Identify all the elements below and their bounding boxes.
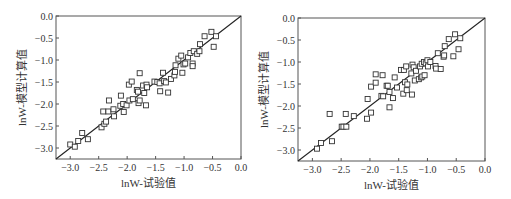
y-tick-label: −0.5 (35, 33, 53, 44)
y-tick-label: −3.0 (277, 145, 295, 156)
data-point-square (163, 80, 168, 85)
data-point-square (118, 93, 123, 98)
data-point-square (319, 140, 324, 145)
y-tick-label: −2.5 (35, 121, 53, 132)
data-point-square (365, 96, 370, 101)
data-point-square (106, 98, 111, 103)
x-tick-label: −3.0 (61, 162, 79, 173)
data-point-square (158, 89, 163, 94)
data-point-square (392, 75, 397, 80)
data-point-square (404, 88, 409, 93)
data-point-square (380, 73, 385, 78)
data-point-square (124, 103, 129, 108)
y-tick-label: −1.5 (277, 79, 295, 90)
right-scatter-plot: −3.0−2.5−2.0−1.5−1.0−0.50.00.0−0.5−1.0−1… (242, 0, 511, 199)
y-tick-label: −2.5 (277, 123, 295, 134)
data-point-square (80, 131, 85, 136)
y-axis-label: lnW-模型计算值 (257, 51, 270, 128)
data-point-square (387, 89, 392, 94)
data-point-square (435, 51, 440, 56)
data-point-square (446, 37, 451, 42)
data-point-square (104, 119, 109, 124)
data-point-square (121, 109, 126, 114)
x-tick-label: −1.0 (418, 164, 436, 175)
data-point-square (351, 114, 356, 119)
data-point-square (404, 64, 409, 69)
data-point-square (451, 54, 456, 59)
data-point-square (453, 32, 458, 37)
y-axis-label: lnW-模型计算值 (15, 49, 28, 126)
data-point-square (422, 73, 427, 78)
y-tick-label: −2.0 (277, 101, 295, 112)
data-point-square (72, 144, 77, 149)
x-tick-label: −2.0 (118, 162, 136, 173)
data-point-square (142, 91, 147, 96)
data-point-square (373, 72, 378, 77)
x-tick-label: −2.0 (361, 164, 379, 175)
data-point-square (438, 67, 443, 72)
data-point-square (197, 49, 202, 54)
data-point-square (198, 42, 203, 47)
data-point-square (314, 146, 319, 151)
right-chart: −3.0−2.5−2.0−1.5−1.0−0.50.00.0−0.5−1.0−1… (242, 0, 511, 199)
data-point-square (172, 69, 177, 74)
x-tick-label: −3.0 (303, 164, 321, 175)
data-point-square (179, 53, 184, 58)
data-point-square (329, 139, 334, 144)
data-point-square (161, 70, 166, 75)
x-tick-label: −1.0 (175, 162, 193, 173)
x-tick-label: 0.0 (479, 164, 492, 175)
data-point-square (387, 105, 392, 110)
data-point-square (390, 96, 395, 101)
data-point-square (394, 85, 399, 90)
data-point-square (183, 61, 188, 66)
data-point-square (111, 107, 116, 112)
data-point-square (145, 85, 150, 90)
y-tick-label: −1.0 (277, 57, 295, 68)
x-tick-label: −2.5 (332, 164, 350, 175)
data-point-square (137, 71, 142, 76)
x-axis-label: lnW-试验值 (364, 178, 419, 191)
y-tick-label: −2.0 (35, 99, 53, 110)
y-tick-label: −3.0 (35, 143, 53, 154)
x-tick-label: −0.5 (447, 164, 465, 175)
data-point-square (442, 44, 447, 49)
data-point-square (213, 34, 218, 39)
y-tick-label: −1.5 (35, 77, 53, 88)
x-tick-label: −2.5 (90, 162, 108, 173)
data-point-square (143, 103, 148, 108)
data-point-square (442, 53, 447, 58)
data-point-square (456, 47, 461, 52)
left-chart: −3.0−2.5−2.0−1.5−1.0−0.50.00.0−0.5−1.0−1… (0, 0, 256, 199)
x-tick-label: −1.5 (147, 162, 165, 173)
data-point-square (202, 34, 207, 39)
left-scatter-plot: −3.0−2.5−2.0−1.5−1.0−0.50.00.0−0.5−1.0−1… (0, 0, 256, 199)
y-tick-label: 0.0 (283, 13, 296, 24)
data-point-square (85, 137, 90, 142)
data-point-square (173, 63, 178, 68)
data-point-square (112, 114, 117, 119)
data-point-square (129, 79, 134, 84)
data-point-square (373, 80, 378, 85)
data-point-square (211, 44, 216, 49)
y-tick-label: 0.0 (41, 11, 54, 22)
data-point-square (369, 110, 374, 115)
data-point-square (344, 124, 349, 129)
data-point-square (327, 111, 332, 116)
data-point-square (106, 109, 111, 114)
y-tick-label: −0.5 (277, 35, 295, 46)
data-point-square (137, 98, 142, 103)
x-tick-label: −1.5 (390, 164, 408, 175)
y-tick-label: −1.0 (35, 55, 53, 66)
data-point-square (101, 109, 106, 114)
data-point-square (343, 111, 348, 116)
data-point-square (190, 64, 195, 69)
data-point-square (405, 82, 410, 87)
data-point-square (381, 94, 386, 99)
data-point-square (428, 60, 433, 65)
data-point-square (76, 138, 81, 143)
data-point-square (365, 116, 370, 121)
data-point-square (166, 90, 171, 95)
data-point-square (458, 36, 463, 41)
data-point-square (135, 89, 140, 94)
